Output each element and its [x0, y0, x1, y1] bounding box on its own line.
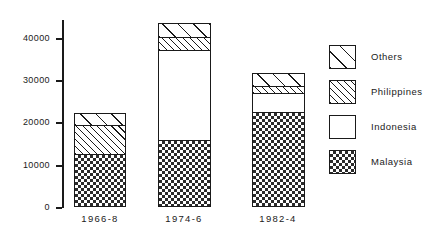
- y-tick-label-30000: 30000: [2, 76, 50, 85]
- bar-segment-philippines-1974-6: [158, 37, 211, 51]
- y-tick-label-40000: 40000: [2, 34, 50, 43]
- y-tick-mark-30000: [56, 80, 62, 82]
- bar-segment-indonesia-1974-6: [158, 50, 211, 141]
- stacked-bar-chart: 40000 30000 20000 10000 0 1966-8 1974-6 …: [0, 0, 431, 237]
- y-tick-mark-10000: [56, 165, 62, 167]
- x-axis-label-1982-4: 1982-4: [242, 214, 314, 224]
- bar-segment-others-1982-4: [252, 73, 305, 87]
- legend-label-philippines: Philippines: [371, 86, 422, 97]
- y-tick-label-0: 0: [2, 203, 50, 212]
- bar-segment-philippines-1966-8: [74, 125, 126, 155]
- legend-swatch-others-icon: [329, 45, 356, 69]
- y-tick-label-20000: 20000: [2, 118, 50, 127]
- legend-swatch-indonesia-icon: [329, 115, 356, 139]
- legend-swatch-malaysia-icon: [329, 150, 356, 174]
- y-tick-mark-40000: [56, 38, 62, 40]
- y-tick-label-10000: 10000: [2, 161, 50, 170]
- legend-label-malaysia: Malaysia: [371, 156, 413, 167]
- y-tick-mark-0: [56, 207, 62, 209]
- legend-label-others: Others: [371, 51, 403, 62]
- bar-segment-malaysia-1982-4: [252, 112, 305, 207]
- bar-1974-6: [158, 23, 211, 207]
- bar-1982-4: [252, 73, 305, 207]
- bar-segment-malaysia-1966-8: [74, 154, 126, 207]
- legend-label-indonesia: Indonesia: [371, 121, 417, 132]
- y-tick-mark-20000: [56, 122, 62, 124]
- bar-segment-malaysia-1974-6: [158, 140, 211, 207]
- y-axis-line: [62, 20, 64, 208]
- bar-segment-others-1974-6: [158, 23, 211, 38]
- legend-swatch-philippines-icon: [329, 80, 356, 104]
- x-axis-label-1974-6: 1974-6: [148, 214, 220, 224]
- bar-1966-8: [74, 113, 126, 207]
- bar-segment-indonesia-1982-4: [252, 93, 305, 113]
- x-axis-label-1966-8: 1966-8: [64, 214, 136, 224]
